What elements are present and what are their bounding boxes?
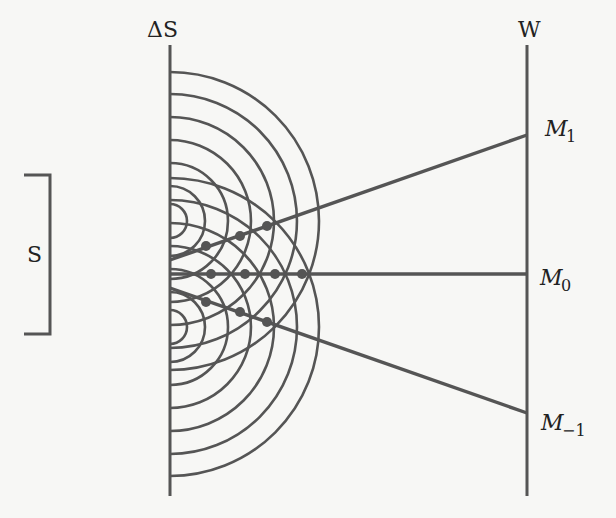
interference-node <box>235 307 245 317</box>
interference-node <box>235 231 245 241</box>
interference-node <box>297 269 307 279</box>
label-m0-sub: 0 <box>561 276 571 295</box>
label-screen: W <box>518 17 541 42</box>
label-m-neg1: M −1 <box>540 410 586 440</box>
interference-node <box>240 269 250 279</box>
label-slits: ΔS <box>147 17 178 42</box>
upper-wavefront-arc <box>170 204 187 238</box>
label-m1-main: M <box>544 116 568 141</box>
interference-node <box>262 317 272 327</box>
interference-node <box>201 241 211 251</box>
label-m0: M 0 <box>539 265 571 295</box>
interference-node <box>262 221 272 231</box>
interference-node <box>270 269 280 279</box>
diagram-canvas: ΔS W S M 1 M 0 M −1 <box>0 0 616 518</box>
label-m0-main: M <box>539 265 563 290</box>
label-mneg1-sub: −1 <box>562 421 586 440</box>
interference-rays <box>170 135 527 413</box>
label-m1-sub: 1 <box>566 127 576 146</box>
lower-wavefront-arc <box>170 310 187 344</box>
label-mneg1-main: M <box>540 410 564 435</box>
interference-node <box>201 297 211 307</box>
label-m1: M 1 <box>544 116 576 146</box>
label-source: S <box>27 242 42 267</box>
double-slit-diagram: ΔS W S M 1 M 0 M −1 <box>0 0 616 518</box>
interference-node <box>206 269 216 279</box>
